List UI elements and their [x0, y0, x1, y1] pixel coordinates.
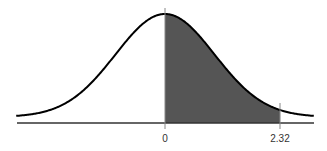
tick-label-zero: 0 [162, 133, 168, 144]
shaded-area-0-to-2.32 [165, 14, 280, 123]
normal-distribution-chart: 0 2.32 [0, 0, 327, 151]
tick-label-z-value: 2.32 [270, 133, 290, 144]
